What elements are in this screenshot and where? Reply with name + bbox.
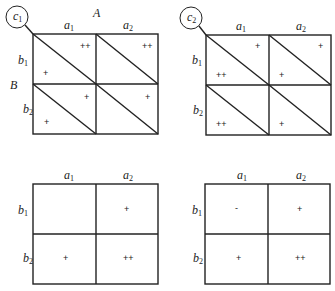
panel-bottom-left: a1 a2 b1 b2 + + ++ — [18, 168, 158, 284]
panel-top-right: c2 a1 a2 b1 b2 + ++ + + ++ + — [180, 7, 331, 135]
row-header-b1: b1 — [192, 203, 202, 218]
cell-sign: + — [43, 68, 48, 78]
cell-sign: + — [44, 117, 49, 127]
column-header-a2: a2 — [296, 168, 306, 183]
column-header-a1: a1 — [236, 19, 246, 34]
cell-sign: + — [145, 92, 150, 102]
column-header-a1: a1 — [237, 168, 247, 183]
cell-sign: + — [84, 92, 89, 102]
cell-sign: ++ — [216, 70, 227, 80]
factor-a-label: A — [92, 6, 101, 20]
cell-sign: + — [255, 41, 260, 51]
row-header-b1: b1 — [18, 53, 28, 68]
cell-sign: + — [279, 70, 284, 80]
cell-sign: + — [318, 41, 323, 51]
row-header-b2: b2 — [193, 103, 203, 118]
cell-sign: + — [63, 253, 68, 263]
cell-sign: ++ — [123, 253, 134, 263]
cell-sign: + — [297, 204, 302, 214]
row-header-b1: b1 — [18, 203, 28, 218]
cell-sign: + — [236, 253, 241, 263]
cell-sign: ++ — [216, 119, 227, 129]
row-header-b2: b2 — [23, 102, 33, 117]
interaction-diagram: c1 A B a1 a2 b1 b2 ++ + ++ + + + c2 a1 a… — [0, 0, 335, 291]
column-header-a2: a2 — [296, 19, 306, 34]
panel-top-left: c1 A B a1 a2 b1 b2 ++ + ++ + + + — [6, 6, 158, 134]
circle-c1-leader — [25, 25, 33, 34]
circle-c2-label: c2 — [187, 10, 196, 25]
column-header-a1: a1 — [64, 18, 74, 33]
column-header-a2: a2 — [123, 168, 133, 183]
circle-c2-leader — [199, 26, 206, 35]
row-header-b2: b2 — [23, 251, 33, 266]
cell-sign: - — [235, 203, 238, 213]
cell-sign: ++ — [142, 41, 153, 51]
row-header-b1: b1 — [192, 53, 202, 68]
circle-c1-label: c1 — [13, 9, 22, 24]
factor-b-label: B — [10, 78, 18, 92]
cell-sign: ++ — [295, 253, 306, 263]
row-header-b2: b2 — [193, 251, 203, 266]
cell-sign: ++ — [80, 41, 91, 51]
column-header-a2: a2 — [123, 18, 133, 33]
cell-sign: + — [279, 119, 284, 129]
column-header-a1: a1 — [64, 168, 74, 183]
panel-bottom-right: a1 a2 b1 b2 - + + ++ — [192, 168, 330, 284]
cell-sign: + — [124, 204, 129, 214]
